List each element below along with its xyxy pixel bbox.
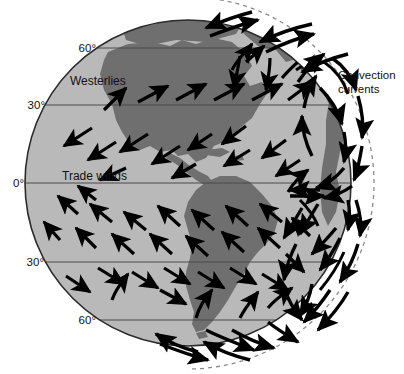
earth-circulation-diagram: 60° 30° 0° 30° 60° Westerlies Trade wind… — [0, 0, 404, 374]
diagram-canvas: 60° 30° 0° 30° 60° Westerlies Trade wind… — [0, 0, 404, 374]
convection-arrow — [344, 132, 346, 162]
convection-currents-label-line1: Convection — [338, 69, 396, 81]
convection-arrow — [268, 322, 298, 342]
convection-arrow — [260, 24, 312, 42]
latitude-label-60n: 60° — [79, 42, 96, 54]
latitude-label-30n: 30° — [28, 99, 45, 111]
convection-arrow — [356, 200, 361, 236]
convection-currents-label-line2: currents — [338, 83, 380, 95]
latitude-label-60s: 60° — [79, 314, 96, 326]
latitude-label-0: 0° — [13, 177, 24, 189]
convection-arrow — [354, 146, 362, 180]
convection-arrow — [340, 244, 358, 282]
trade-winds-label: Trade winds — [62, 169, 127, 183]
westerlies-label: Westerlies — [70, 74, 126, 88]
latitude-label-30s: 30° — [27, 256, 44, 268]
convection-arrow — [348, 200, 350, 230]
convection-arrow — [358, 96, 363, 138]
